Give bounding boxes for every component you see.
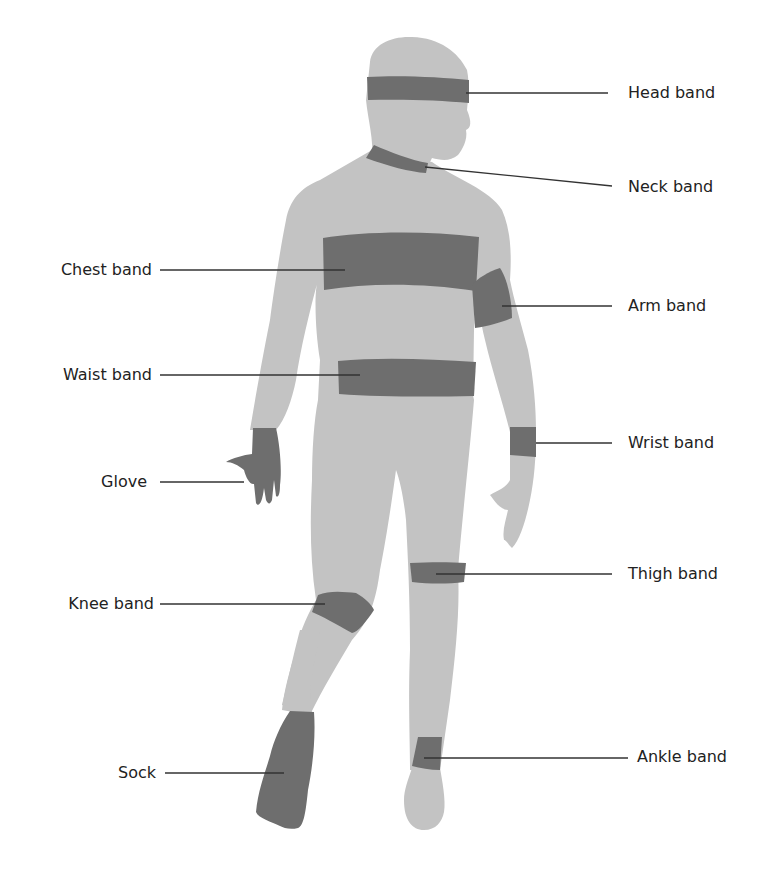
label-chest-band: Chest band [61,260,152,280]
head-band-shape [367,76,469,103]
label-glove: Glove [101,472,147,492]
wearable-sensor-body-diagram: Head band Neck band Chest band Arm band … [0,0,774,873]
label-knee-band: Knee band [68,594,154,614]
label-wrist-band: Wrist band [628,433,714,453]
label-head-band: Head band [628,83,715,103]
sock-shape [256,711,315,829]
wrist-band-shape [510,427,536,457]
chest-band-shape [323,233,479,291]
label-neck-band: Neck band [628,177,713,197]
waist-band-shape [338,359,476,397]
label-arm-band: Arm band [628,296,706,316]
glove-shape [226,428,281,505]
thigh-band-shape [410,562,466,583]
label-ankle-band: Ankle band [637,747,727,767]
label-sock: Sock [118,763,156,783]
label-waist-band: Waist band [63,365,152,385]
label-thigh-band: Thigh band [628,564,718,584]
